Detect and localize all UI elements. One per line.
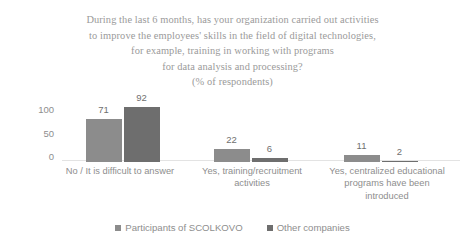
- category-label-line: Yes, centralized educational: [312, 165, 462, 177]
- plot-area: 100 50 0 7192226112: [0, 100, 465, 162]
- chart-title: During the last 6 months, has your organ…: [0, 12, 465, 90]
- legend-swatch-icon: [115, 225, 121, 231]
- bar: [86, 119, 122, 162]
- bar: [344, 155, 380, 162]
- chart-title-line: to improve the employees' skills in the …: [0, 28, 465, 44]
- chart-title-line: During the last 6 months, has your organ…: [0, 12, 465, 28]
- y-axis-tick-label: 50: [20, 128, 54, 139]
- legend-label: Participants of SCOLKOVO: [125, 222, 242, 233]
- bar-value-label: 22: [212, 134, 252, 145]
- category-label-line: introduced: [312, 190, 462, 202]
- bar: [252, 158, 288, 162]
- bar: [382, 161, 418, 162]
- legend-label: Other companies: [277, 222, 350, 233]
- chart-legend: Participants of SCOLKOVO Other companies: [0, 222, 465, 233]
- category-label-line: activities: [186, 177, 318, 189]
- bar: [214, 149, 250, 162]
- bar-value-label: 6: [250, 143, 290, 154]
- x-axis-category-labels: No / It is difficult to answer Yes, trai…: [0, 165, 465, 211]
- bar-value-label: 2: [380, 146, 420, 157]
- y-axis-tick-label: 100: [20, 104, 54, 115]
- bar-value-label: 11: [342, 140, 382, 151]
- category-label: No / It is difficult to answer: [40, 165, 200, 177]
- chart-title-line: for example, training in working with pr…: [0, 43, 465, 59]
- chart-title-line: for data analysis and processing?: [0, 59, 465, 75]
- category-label: Yes, training/recruitment activities: [186, 165, 318, 190]
- legend-item-other-companies[interactable]: Other companies: [267, 222, 350, 233]
- category-label: Yes, centralized educational programs ha…: [312, 165, 462, 202]
- category-label-line: programs have been: [312, 177, 462, 189]
- bar: [124, 107, 160, 162]
- legend-item-participants-of-scolkovo[interactable]: Participants of SCOLKOVO: [115, 222, 242, 233]
- chart-title-line: (% of respondents): [0, 74, 465, 90]
- category-label-line: Yes, training/recruitment: [186, 165, 318, 177]
- legend-swatch-icon: [267, 225, 273, 231]
- y-axis-tick-label: 0: [20, 151, 54, 162]
- bar-value-label: 71: [84, 104, 124, 115]
- bar-value-label: 92: [122, 92, 162, 103]
- category-label-line: No / It is difficult to answer: [40, 165, 200, 177]
